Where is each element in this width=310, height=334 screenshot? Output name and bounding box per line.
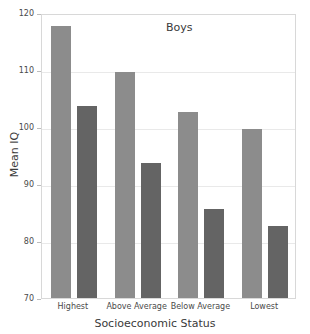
x-tick-label: Above Average xyxy=(106,302,167,311)
bar xyxy=(141,163,161,299)
y-tick-label: 100 xyxy=(19,124,34,132)
x-axis-title: Socioeconomic Status xyxy=(0,317,310,330)
bar xyxy=(268,226,288,299)
plot-area: Boys xyxy=(41,14,296,299)
x-tick-label: Below Average xyxy=(171,302,230,311)
x-tick-label: Highest xyxy=(58,302,89,311)
x-axis: HighestAbove AverageBelow AverageLowest xyxy=(41,302,296,316)
x-tick-label: Lowest xyxy=(250,302,278,311)
bar xyxy=(51,26,71,299)
y-axis-title: Mean IQ xyxy=(8,115,21,195)
y-tick-label: 90 xyxy=(24,181,34,189)
y-tick-mark xyxy=(37,299,41,300)
clipped-header-strip xyxy=(0,0,310,6)
gridline xyxy=(42,72,295,73)
y-tick-label: 80 xyxy=(24,238,34,246)
bar xyxy=(115,72,135,299)
y-tick-label: 120 xyxy=(19,10,34,18)
y-tick-label: 110 xyxy=(19,67,34,75)
bar xyxy=(178,112,198,299)
bar xyxy=(77,106,97,299)
bar xyxy=(204,209,224,299)
y-tick-label: 70 xyxy=(24,295,34,303)
bar-chart: 708090100110120 Mean IQ Boys HighestAbov… xyxy=(0,0,310,334)
bar xyxy=(242,129,262,299)
y-axis: 708090100110120 xyxy=(0,0,41,334)
plot-title: Boys xyxy=(166,21,193,34)
